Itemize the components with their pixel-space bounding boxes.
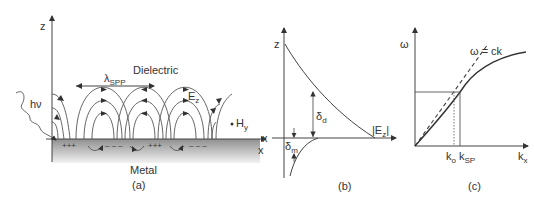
delta-d-label: δd [316,110,327,125]
metal-label: Metal [130,164,157,176]
caption-c: (c) [468,180,481,192]
panel-b: x z δd δm |Ez| (b) [262,28,396,192]
light-line-label: ω = ck [470,45,503,57]
caption-a: (a) [132,179,145,191]
charge-minus-1: – – – [105,141,123,150]
hy-label: Hy [236,117,248,132]
spp-diagram: z x Dielectric Metal (a) λSPP hν [0,0,534,200]
dielectric-decay-curve [285,44,375,138]
z-axis-label: z [40,20,46,32]
omega-axis-label: ω [400,38,409,50]
b-z-label: z [274,38,280,50]
charge-minus-2: – – – [189,141,207,150]
k-axis-label: kx [518,150,528,165]
delta-m-label: δm [285,140,298,155]
light-line [415,44,488,146]
b-x-label: x [262,132,268,144]
wavelength-label: λSPP [104,72,126,87]
photon-label: hν [30,98,42,110]
panel-c: ω kx ω = ck ko kSP (c) [400,28,528,192]
charge-plus-1: +++ [62,141,76,150]
panel-a: z x Dielectric Metal (a) λSPP hν [16,16,266,191]
dielectric-label: Dielectric [133,64,179,76]
spp-dispersion-curve [415,52,526,146]
caption-b: (b) [338,180,351,192]
k0-label: ko [446,150,457,165]
ez-magnitude-label: |Ez| [372,124,389,139]
charge-plus-2: +++ [148,141,162,150]
hy-dot-icon [231,123,234,126]
x-axis-label: x [258,144,264,156]
ksp-label: kSP [459,150,475,165]
